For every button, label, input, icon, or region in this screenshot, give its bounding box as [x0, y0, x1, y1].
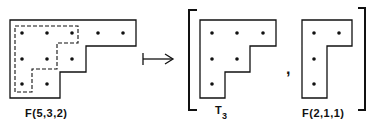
label-f532: F(5,3,2): [25, 107, 68, 119]
dots: [20, 31, 125, 86]
label-t: T: [215, 104, 222, 116]
maps-to-arrow-icon: [143, 53, 173, 65]
label-f211: F(2,1,1): [302, 107, 345, 119]
right-bracket: [358, 8, 365, 110]
separator-comma: ,: [286, 60, 290, 77]
label-t-subscript: 3: [222, 111, 227, 121]
left-bracket: [189, 10, 197, 110]
ferrers-shape-f532: F(5,3,2): [10, 20, 136, 119]
ferrers-shape-t3: T 3: [200, 20, 276, 121]
diagram-canvas: F(5,3,2) T 3 , F(2,1,1): [0, 0, 373, 129]
ferrers-shape-f211: F(2,1,1): [302, 20, 352, 119]
